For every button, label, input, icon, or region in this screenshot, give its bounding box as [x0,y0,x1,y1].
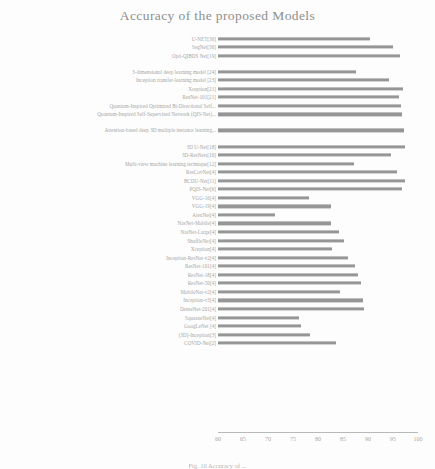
x-tick-label: 60 [215,436,221,442]
bar-category-label: Multi-view machine learning technique[12… [125,161,216,167]
bar-category-label: SqueezeNet[4] [185,315,216,321]
bar-track [218,79,389,82]
bar-track [218,205,331,208]
bar-category-label: VGG-19[4] [192,203,216,209]
x-tick-label: 65 [240,436,246,442]
x-tick-label: 75 [290,436,296,442]
bar-track [218,230,339,233]
bar-category-label: (3D)-Inception[3] [179,332,216,338]
bar-track [218,333,310,336]
bar-track [218,54,400,57]
bar [218,265,355,268]
bar [218,70,356,73]
bar-category-label: 3-dimensional deep learning model [24] [132,69,216,75]
bar-category-label: NasNet-Large[4] [181,229,216,235]
bar-track [218,96,399,99]
bar-category-label: GoogLeNet [4] [184,323,216,329]
bar-category-label: BCDU-Net[11] [184,178,216,184]
bar-track [218,104,401,107]
bar-category-label: NasNet-Mobile[4] [178,220,216,226]
bar-track [218,153,391,156]
bar [218,324,301,327]
bar-track [218,282,361,285]
bar [218,145,405,148]
bar-row: Attention-based deep 3D multiple instanc… [0,126,435,135]
bar-track [218,239,344,242]
bar-track [218,342,336,345]
bar-track [218,188,402,191]
bar-category-label: Quantum-Inspired Self-Supervised Network… [97,111,216,117]
bar-track [218,162,354,165]
bar-track [218,290,340,293]
bar-category-label: SegNet[36] [192,44,216,50]
bar [218,171,397,174]
bar [218,316,299,319]
bar [218,96,399,99]
x-tick-label: 90 [365,436,371,442]
figure-caption: Fig. 10 Accuracy of ... [0,462,435,469]
bar-category-label: Xception[21] [188,86,216,92]
bar [218,87,403,90]
bar-track [218,248,332,251]
bar [218,256,348,259]
bar-row: Quantum-Inspired Self-Supervised Network… [0,110,435,119]
x-axis-line [218,432,418,433]
bar-track [218,70,356,73]
bar-category-label: ShuffleNet[4] [187,238,216,244]
bar-category-label: Quantum-Inspired Optimized Bi-Directiona… [109,103,216,109]
x-tick-label: 95 [390,436,396,442]
bar [218,79,389,82]
bar [218,37,370,40]
bar [218,342,336,345]
bar-row: Opti-QIBDS Net[19] [0,51,435,60]
bar [218,222,331,225]
bar-category-label: ResNet-101[21] [182,94,216,100]
bar-category-label: AlexNet[4] [192,212,216,218]
x-tick-label: 100 [414,436,423,442]
figure-canvas: Accuracy of the proposed Models U-NET[36… [0,0,435,469]
bar [218,54,400,57]
bar-category-label: 3D U-Net[18] [187,144,216,150]
bar-track [218,171,397,174]
bar [218,129,404,132]
bar-track [218,324,301,327]
x-tick-label: 85 [340,436,346,442]
bar [218,196,309,199]
x-tick-label: 80 [315,436,321,442]
bar [218,104,401,107]
bar-category-label: ResNet-101[4] [185,263,216,269]
bar-category-label: U-NET[36] [192,36,216,42]
bar-track [218,273,358,276]
bar-category-label: ResNet-18[4] [188,272,216,278]
bar [218,162,354,165]
bar-track [218,145,405,148]
bar-track [218,45,393,48]
plot-area: U-NET[36]SegNet[36]Opti-QIBDS Net[19]3-d… [0,30,435,432]
bar [218,299,363,302]
bar [218,205,331,208]
bar-track [218,222,331,225]
bar-category-label: DenseNet-201[4] [180,306,216,312]
bar-track [218,256,348,259]
bar [218,179,405,182]
bar [218,113,402,116]
bar [218,153,391,156]
bar-track [218,316,299,319]
bar-category-label: VGG-16[4] [192,195,216,201]
bar [218,230,339,233]
bar-track [218,37,370,40]
x-tick-label: 70 [265,436,271,442]
bar-category-label: Inception-ResNet-v2[4] [166,255,216,261]
bar-category-label: ResCovNet[4] [186,169,216,175]
bar-track [218,87,403,90]
bar-category-label: Xception[4] [191,246,216,252]
bar [218,290,340,293]
bar-track [218,113,402,116]
chart-title: Accuracy of the proposed Models [0,8,435,24]
bar [218,239,344,242]
bar-category-label: Inception transfer-learning model [23] [136,77,216,83]
bar-track [218,213,275,216]
bar-category-label: Attention-based deep 3D multiple instanc… [104,127,216,133]
bar [218,213,275,216]
bar-category-label: ResNet-50[4] [188,280,216,286]
